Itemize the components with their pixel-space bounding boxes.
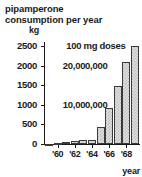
bar xyxy=(62,142,70,144)
x-tick-label: '60 xyxy=(52,149,63,159)
y-tick xyxy=(41,124,45,125)
bar xyxy=(114,86,122,144)
chart-title-line-2: consumption per year xyxy=(5,14,139,25)
chart-title: pipamperone consumption per year xyxy=(5,3,139,25)
y-tick xyxy=(41,46,45,47)
y-tick-label: 0 xyxy=(0,139,37,148)
bar xyxy=(71,141,79,144)
x-tick xyxy=(75,145,76,148)
x-tick xyxy=(126,145,127,148)
chart-annotation: 20,000,000 xyxy=(63,61,108,70)
bar xyxy=(131,46,139,144)
bar xyxy=(97,127,105,144)
y-tick xyxy=(41,105,45,106)
y-axis-unit-label: kg xyxy=(29,25,39,35)
y-tick xyxy=(41,85,45,86)
y-tick-label: 1000 xyxy=(0,100,37,109)
y-tick-label: 2500 xyxy=(0,41,37,50)
y-axis-line xyxy=(44,42,45,145)
y-tick-label: 2000 xyxy=(0,61,37,70)
chart-annotation: 100 mg doses xyxy=(66,41,125,50)
bar xyxy=(105,108,113,144)
x-tick-label: '62 xyxy=(69,149,80,159)
bar xyxy=(88,140,96,144)
x-tick xyxy=(109,145,110,148)
y-tick-label: 1500 xyxy=(0,80,37,89)
y-tick xyxy=(41,66,45,67)
x-tick xyxy=(58,145,59,148)
bar xyxy=(122,62,130,144)
x-tick-label: '66 xyxy=(104,149,115,159)
bar xyxy=(45,144,53,146)
x-axis-title: year xyxy=(122,166,140,176)
chart-title-line-1: pipamperone xyxy=(5,3,139,14)
plot-area: 05001000150020002500 100 mg doses20,000,… xyxy=(44,42,140,145)
y-tick-label: 500 xyxy=(0,119,37,128)
chart-figure: pipamperone consumption per year kg 0500… xyxy=(0,0,142,177)
x-tick-label: '68 xyxy=(121,149,132,159)
x-tick-label: '64 xyxy=(86,149,97,159)
chart-annotation: 10,000,000 xyxy=(63,100,108,109)
x-tick xyxy=(92,145,93,148)
bar xyxy=(79,140,87,144)
